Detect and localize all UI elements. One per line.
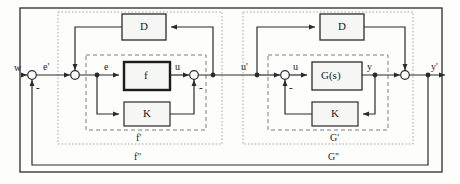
junction-node-uprime xyxy=(211,73,216,78)
block-label-d-left: D xyxy=(140,21,148,32)
signal-label-u-prime: u' xyxy=(241,62,248,72)
block-label-k-right: K xyxy=(331,108,339,119)
signal-label-w: w xyxy=(14,63,21,73)
outer-frame xyxy=(20,8,442,172)
junction-node-yprime xyxy=(426,73,431,78)
block-diagram-canvas: D f K D G(s) K w e' e u u' u y y' - - - … xyxy=(0,0,460,184)
wire-global-feedback xyxy=(32,75,428,165)
signal-label-e: e xyxy=(104,62,108,72)
wire-d-left-to-sum xyxy=(75,27,122,70)
signal-label-e-prime: e' xyxy=(43,62,49,72)
minus-sign-f-local: - xyxy=(199,82,203,93)
block-label-d-right: D xyxy=(338,21,346,32)
junction-sum-u-kright[interactable] xyxy=(281,71,290,80)
wire-y-to-k-right xyxy=(363,75,375,114)
junction-sum-y-d[interactable] xyxy=(401,71,410,80)
junction-node-e-branch xyxy=(95,73,100,78)
signal-label-y-prime: y' xyxy=(431,62,438,72)
block-label-k-left: K xyxy=(143,108,151,119)
minus-sign-outer-left: - xyxy=(36,82,40,93)
diagram-svg xyxy=(0,0,460,184)
junction-sum-u-k[interactable] xyxy=(190,71,199,80)
group-label-g-double-prime: G'' xyxy=(328,152,339,162)
block-label-g-right: G(s) xyxy=(321,70,341,81)
junction-sum-w-feedback[interactable] xyxy=(28,71,37,80)
signal-label-y: y xyxy=(367,62,372,72)
wire-e-branch-to-k xyxy=(97,75,119,114)
minus-sign-g-local: - xyxy=(289,82,293,93)
group-label-g-prime: G' xyxy=(330,133,339,143)
wire-uprime-to-d-right xyxy=(257,27,315,75)
wire-k-to-sum-left xyxy=(170,80,194,114)
junction-sum-eprime-d[interactable] xyxy=(71,71,80,80)
junction-node-uprime-tap xyxy=(255,73,260,78)
group-label-f-prime: f' xyxy=(136,133,141,143)
signal-label-u-right: u xyxy=(293,62,298,72)
block-label-f-left: f xyxy=(144,70,148,81)
group-label-f-double-prime: f'' xyxy=(134,152,141,162)
signal-label-u-left: u xyxy=(175,62,180,72)
junction-node-y-branch xyxy=(373,73,378,78)
